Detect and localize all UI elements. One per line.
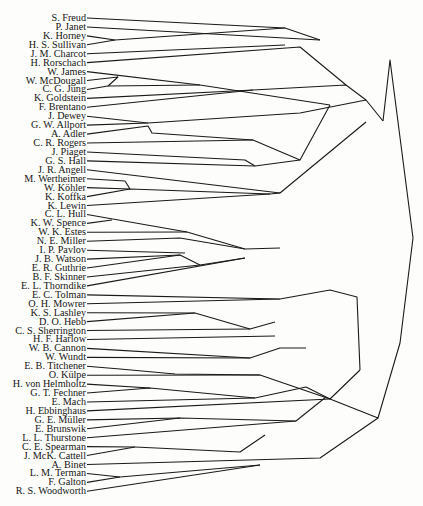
branch-line: [87, 477, 120, 482]
branch-line: [87, 194, 270, 206]
branch-line: [87, 336, 275, 339]
branch-line: [87, 250, 185, 253]
branch-line: [87, 188, 130, 189]
branch-line: [87, 90, 253, 98]
branch-line: [87, 348, 306, 358]
branch-line: [87, 116, 148, 123]
branch-line: [87, 160, 300, 166]
branch-line: [87, 384, 150, 388]
branch-line: [87, 238, 245, 249]
branch-line: [87, 397, 326, 438]
branch-line: [87, 220, 112, 223]
branch-line: [87, 140, 253, 143]
branch-line: [87, 447, 135, 456]
branch-line: [87, 265, 200, 277]
branch-line: [87, 47, 346, 85]
branch-line: [87, 398, 255, 402]
branch-line: [87, 435, 265, 452]
branch-line: [87, 295, 280, 299]
branch-line: [87, 122, 366, 193]
branch-line: [87, 85, 200, 89]
branch-line: [87, 418, 378, 465]
branch-line: [87, 40, 115, 45]
branch-line: [87, 258, 245, 286]
branch-line: [87, 313, 195, 322]
branch-line: [87, 313, 275, 329]
branch-line: [87, 28, 285, 40]
branch-line: [87, 418, 296, 421]
dendrogram-branches: [0, 0, 423, 506]
branch-line: [87, 465, 260, 477]
dendrogram-figure: S. FreudP. JanetK. HorneyH. S. SullivanJ…: [0, 0, 423, 506]
branch-line: [87, 45, 285, 54]
branch-line: [87, 357, 250, 358]
branch-line: [87, 77, 118, 86]
branch-line: [87, 329, 250, 331]
